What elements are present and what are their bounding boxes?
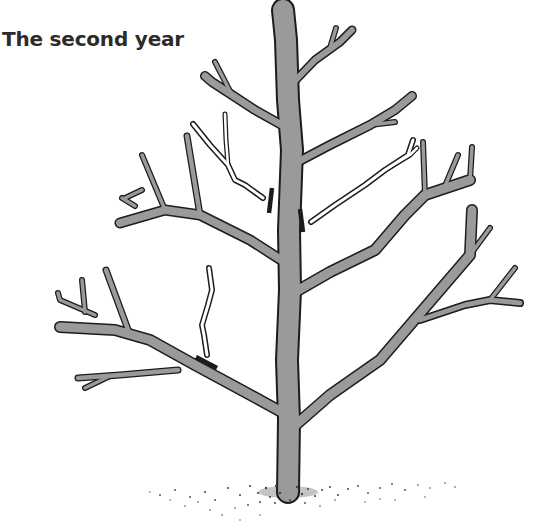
removed-branch-upper-right bbox=[311, 140, 417, 222]
removed-branch-upper-left bbox=[193, 114, 263, 198]
cut-mark-upper-right bbox=[300, 209, 303, 232]
cut-mark-upper-left bbox=[269, 188, 272, 213]
removed-branch-lower-left bbox=[202, 268, 212, 355]
tree-illustration bbox=[0, 0, 545, 530]
retained-branches-fill bbox=[58, 10, 520, 492]
